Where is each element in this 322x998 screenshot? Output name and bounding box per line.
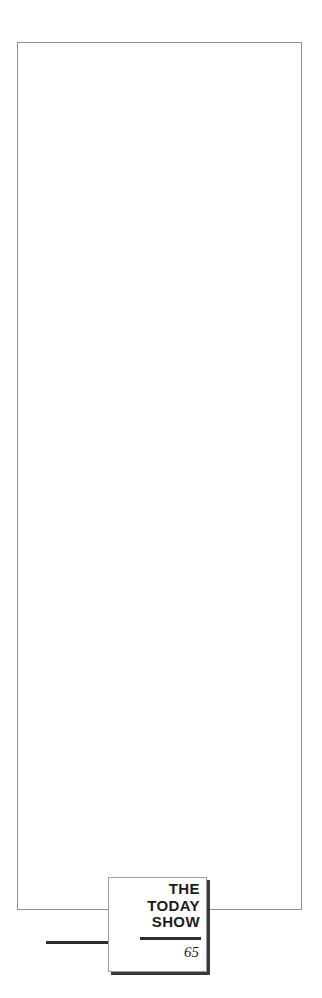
page-number: 65 <box>184 943 199 962</box>
document-page: THE TODAY SHOW 65 <box>0 0 322 998</box>
title-block: THE TODAY SHOW 65 <box>108 877 207 972</box>
title-line-3: SHOW <box>147 914 200 931</box>
title-line-1: THE <box>147 881 200 898</box>
content-frame <box>17 42 302 910</box>
title-text-group: THE TODAY SHOW <box>147 881 200 931</box>
title-divider-rule <box>140 937 201 940</box>
title-line-2: TODAY <box>147 898 200 915</box>
